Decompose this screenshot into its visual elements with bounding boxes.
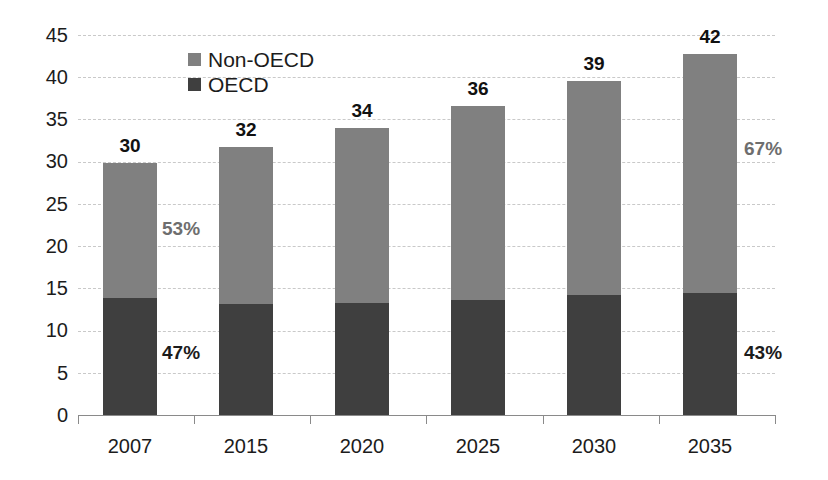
y-tick-label: 40 <box>8 67 68 87</box>
gridline <box>78 204 775 205</box>
y-tick-label: 45 <box>8 25 68 45</box>
bar-total-label: 42 <box>699 27 720 46</box>
percent-label-2035-oecd: 43% <box>744 343 782 362</box>
bar-segment-non-oecd <box>335 128 389 303</box>
x-axis-tick <box>543 415 544 424</box>
x-axis-tick <box>426 415 427 424</box>
x-tick-label-2015: 2015 <box>224 436 269 456</box>
percent-label-2007-non-oecd: 53% <box>162 219 200 238</box>
y-tick-label: 0 <box>8 405 68 425</box>
y-tick-label: 20 <box>8 236 68 256</box>
legend-swatch-icon <box>188 53 201 66</box>
y-tick-label: 10 <box>8 320 68 340</box>
x-axis-tick <box>194 415 195 424</box>
bar-segment-oecd <box>683 293 737 416</box>
x-tick-label-2035: 2035 <box>688 436 733 456</box>
bar-segment-oecd <box>103 298 157 415</box>
y-tick-label: 35 <box>8 109 68 129</box>
percent-label-2007-oecd: 47% <box>162 343 200 362</box>
stacked-bar-chart: 45 40 35 30 25 20 15 10 5 0 30 <box>0 0 828 480</box>
gridline <box>78 35 775 36</box>
x-tick-label-2007: 2007 <box>108 436 153 456</box>
legend: Non-OECD OECD <box>188 47 314 97</box>
y-tick-label: 15 <box>8 278 68 298</box>
bar-2035[interactable]: 42 <box>683 54 737 415</box>
bar-segment-oecd <box>219 304 273 415</box>
bar-segment-non-oecd <box>219 147 273 304</box>
bar-2025[interactable]: 36 <box>451 106 505 415</box>
bar-total-label: 36 <box>467 79 488 98</box>
gridline <box>78 162 775 163</box>
percent-label-2035-non-oecd: 67% <box>744 139 782 158</box>
gridline <box>78 119 775 120</box>
x-tick-label-2030: 2030 <box>572 436 617 456</box>
bar-segment-non-oecd <box>567 81 621 295</box>
x-axis-tick <box>659 415 660 424</box>
legend-item-non-oecd[interactable]: Non-OECD <box>188 47 314 72</box>
legend-label-oecd: OECD <box>208 74 269 95</box>
gridline <box>78 246 775 247</box>
x-tick-label-2025: 2025 <box>456 436 501 456</box>
legend-swatch-icon <box>188 78 201 91</box>
bar-segment-non-oecd <box>103 163 157 297</box>
y-tick-label: 25 <box>8 194 68 214</box>
gridline <box>78 288 775 289</box>
bar-total-label: 30 <box>119 136 140 155</box>
gridline <box>78 331 775 332</box>
bar-2020[interactable]: 34 <box>335 128 389 415</box>
plot-area: 30 32 34 36 39 42 <box>78 35 775 415</box>
x-tick-label-2020: 2020 <box>340 436 385 456</box>
bar-2015[interactable]: 32 <box>219 147 273 415</box>
bar-segment-oecd <box>451 300 505 415</box>
bar-2007[interactable]: 30 <box>103 163 157 415</box>
bar-total-label: 32 <box>235 120 256 139</box>
y-tick-label: 30 <box>8 151 68 171</box>
gridline <box>78 373 775 374</box>
x-axis-right-cap <box>775 415 776 424</box>
y-tick-label: 5 <box>8 363 68 383</box>
bar-segment-oecd <box>567 295 621 415</box>
bar-segment-oecd <box>335 303 389 415</box>
y-axis-labels: 45 40 35 30 25 20 15 10 5 0 <box>0 0 68 480</box>
legend-label-non-oecd: Non-OECD <box>208 49 314 70</box>
bar-segment-non-oecd <box>451 106 505 300</box>
x-axis-left-cap <box>78 415 79 424</box>
bar-segment-non-oecd <box>683 54 737 292</box>
bar-total-label: 39 <box>583 54 604 73</box>
legend-item-oecd[interactable]: OECD <box>188 72 314 97</box>
gridline <box>78 77 775 78</box>
x-axis-tick <box>310 415 311 424</box>
bar-total-label: 34 <box>351 101 372 120</box>
bar-2030[interactable]: 39 <box>567 81 621 415</box>
